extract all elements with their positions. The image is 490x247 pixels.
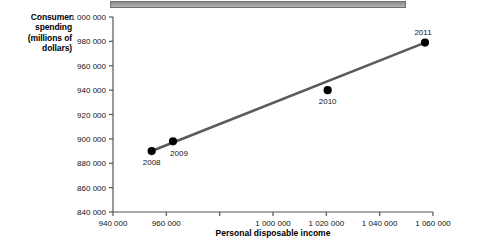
y-axis-tick-label: 920 000	[77, 111, 106, 120]
data-point-2011[interactable]	[421, 38, 429, 46]
data-point-2009[interactable]	[169, 137, 177, 145]
x-axis-tick-label: 960 000	[152, 219, 181, 228]
x-axis-tick-label: 1 020 000	[309, 219, 345, 228]
chart-canvas: Consumer spending (millions of dollars) …	[0, 0, 490, 247]
x-axis-tick-label: 1 000 000	[255, 219, 291, 228]
y-axis-tick-label: 940 000	[77, 86, 106, 95]
x-axis-tick-label: 1 040 000	[362, 219, 398, 228]
data-point-label-2008: 2008	[143, 158, 161, 167]
y-axis-tick-label: 960 000	[77, 62, 106, 71]
trendline	[152, 43, 425, 151]
x-axis-tick-label: 940 000	[99, 219, 128, 228]
data-point-label-2010: 2010	[319, 97, 337, 106]
y-axis-tick-label: 840 000	[77, 208, 106, 217]
data-point-label-2009: 2009	[170, 149, 188, 158]
y-axis-tick-label: 980 000	[77, 37, 106, 46]
y-axis-tick-label: 1 000 000	[70, 13, 106, 22]
data-point-label-2011: 2011	[414, 28, 432, 37]
y-axis-tick-label: 900 000	[77, 135, 106, 144]
data-point-2008[interactable]	[148, 147, 156, 155]
y-axis-tick-label: 860 000	[77, 184, 106, 193]
x-axis-tick-label: 1 060 000	[415, 219, 451, 228]
data-point-2010[interactable]	[324, 86, 332, 94]
scatter-plot: 840 000860 000880 000900 000920 000940 0…	[0, 0, 490, 247]
y-axis-tick-label: 880 000	[77, 159, 106, 168]
